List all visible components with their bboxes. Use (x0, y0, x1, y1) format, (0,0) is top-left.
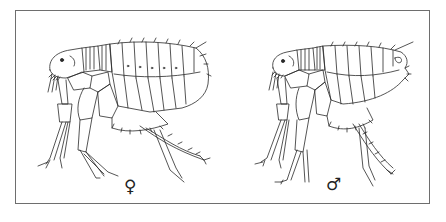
male-symbol-label: ♂ (326, 176, 341, 193)
female-symbol-label: ♀ (124, 178, 136, 195)
flea-female-illustration (0, 0, 223, 222)
